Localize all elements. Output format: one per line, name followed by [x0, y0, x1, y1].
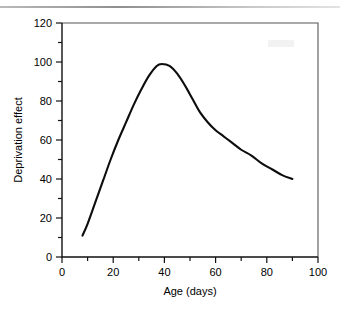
x-axis-title: Age (days) — [163, 285, 216, 297]
x-tick-label: 100 — [309, 266, 327, 278]
y-axis-title: Deprivation effect — [12, 97, 24, 182]
paper-smudge — [268, 40, 294, 47]
deprivation-effect-line-chart: 020406080100120 020406080100 Age (days) … — [0, 0, 340, 309]
x-tick-label: 0 — [59, 266, 65, 278]
x-tick-label: 80 — [261, 266, 273, 278]
y-tick-label: 60 — [40, 134, 52, 146]
y-tick-label: 100 — [34, 56, 52, 68]
page-top-rule — [0, 6, 340, 8]
x-tick-label: 20 — [107, 266, 119, 278]
y-tick-label: 40 — [40, 173, 52, 185]
y-tick-label: 0 — [46, 251, 52, 263]
x-tick-label: 40 — [158, 266, 170, 278]
y-tick-label: 20 — [40, 212, 52, 224]
figure-container: 020406080100120 020406080100 Age (days) … — [0, 0, 340, 309]
y-tick-label: 120 — [34, 17, 52, 29]
y-tick-label: 80 — [40, 95, 52, 107]
x-tick-label: 60 — [209, 266, 221, 278]
